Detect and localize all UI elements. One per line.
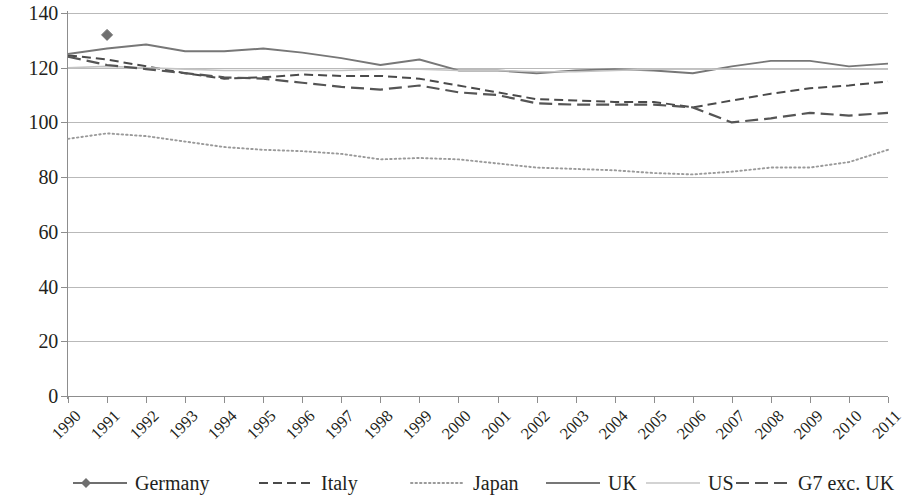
y-tick-label: 20 bbox=[0, 331, 58, 351]
y-tick-mark bbox=[61, 396, 68, 397]
x-tick-mark bbox=[458, 397, 459, 403]
x-tick-mark bbox=[498, 397, 499, 403]
legend-item-italy[interactable]: Italy bbox=[258, 468, 358, 498]
x-tick-mark bbox=[615, 397, 616, 403]
y-tick-label: 60 bbox=[0, 222, 58, 242]
legend-item-germany[interactable]: Germany bbox=[72, 468, 209, 498]
dashed-line-swatch bbox=[258, 476, 314, 490]
y-axis: 020406080100120140 bbox=[0, 0, 58, 410]
y-tick-mark bbox=[61, 341, 68, 342]
y-tick-label: 100 bbox=[0, 112, 58, 132]
x-tick-mark bbox=[224, 397, 225, 403]
x-tick-mark bbox=[302, 397, 303, 403]
x-tick-mark bbox=[107, 397, 108, 403]
series-line-japan bbox=[68, 133, 888, 174]
line-diamond-swatch bbox=[72, 476, 128, 490]
x-tick-mark bbox=[732, 397, 733, 403]
legend-label: US bbox=[708, 473, 734, 493]
x-tick-mark bbox=[537, 397, 538, 403]
dashed-long-line-swatch bbox=[735, 476, 791, 490]
dotted-line-swatch bbox=[410, 476, 466, 490]
y-tick-label: 120 bbox=[0, 58, 58, 78]
x-tick-mark bbox=[68, 397, 69, 403]
x-tick-mark bbox=[810, 397, 811, 403]
legend-label: Italy bbox=[321, 473, 358, 493]
y-tick-label: 80 bbox=[0, 167, 58, 187]
y-tick-label: 140 bbox=[0, 3, 58, 23]
x-tick-mark bbox=[576, 397, 577, 403]
x-tick-mark bbox=[849, 397, 850, 403]
x-tick-mark bbox=[380, 397, 381, 403]
y-tick-mark bbox=[61, 232, 68, 233]
legend-item-us[interactable]: US bbox=[645, 468, 734, 498]
series-line-us bbox=[68, 66, 888, 71]
series-lines bbox=[68, 13, 888, 396]
chart-legend: GermanyItalyJapanUKUSG7 exc. UK bbox=[0, 468, 898, 500]
y-tick-mark bbox=[61, 287, 68, 288]
x-tick-mark bbox=[771, 397, 772, 403]
faint-line-swatch bbox=[645, 476, 701, 490]
y-tick-mark bbox=[61, 122, 68, 123]
legend-label: Germany bbox=[135, 473, 209, 493]
y-tick-label: 0 bbox=[0, 386, 58, 406]
x-tick-mark bbox=[146, 397, 147, 403]
gridline bbox=[68, 396, 888, 397]
legend-item-g7-exc-uk[interactable]: G7 exc. UK bbox=[735, 468, 894, 498]
x-tick-mark bbox=[888, 397, 889, 403]
x-tick-mark bbox=[654, 397, 655, 403]
legend-item-japan[interactable]: Japan bbox=[410, 468, 519, 498]
y-tick-mark bbox=[61, 177, 68, 178]
legend-label: G7 exc. UK bbox=[798, 473, 894, 493]
y-tick-mark bbox=[61, 68, 68, 69]
y-tick-label: 40 bbox=[0, 277, 58, 297]
solid-line-swatch bbox=[545, 476, 601, 490]
data-point-marker bbox=[102, 29, 113, 40]
legend-item-uk[interactable]: UK bbox=[545, 468, 637, 498]
x-tick-mark bbox=[693, 397, 694, 403]
x-tick-mark bbox=[341, 397, 342, 403]
x-tick-mark bbox=[263, 397, 264, 403]
legend-label: Japan bbox=[473, 473, 519, 493]
plot-area bbox=[68, 13, 888, 396]
x-tick-mark bbox=[185, 397, 186, 403]
legend-label: UK bbox=[608, 473, 637, 493]
x-tick-mark bbox=[419, 397, 420, 403]
y-tick-mark bbox=[61, 13, 68, 14]
series-line-italy bbox=[68, 55, 888, 107]
